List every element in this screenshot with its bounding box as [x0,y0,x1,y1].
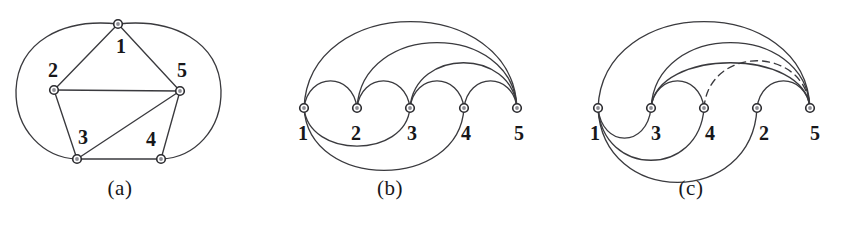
panel-b-vertex-group [300,104,522,113]
panel-b-vertex-core-4 [462,106,466,110]
panel-c-vertex-group [594,104,815,113]
panel-a-vertex-label-1: 1 [116,35,126,58]
panel-b-vertex-label-2: 2 [351,122,361,145]
panel-b-caption: (b) [240,176,540,201]
panel-b-vertex-label-3: 3 [407,122,417,145]
panel-b-arc-diagram: 12345 (b) [240,0,540,232]
panel-c-vertex-label-5: 5 [810,122,820,145]
panel-a-edge-1-2 [54,24,118,90]
panel-c-vertex-label-3: 3 [651,122,661,145]
panel-a-vertex-core-3 [75,157,79,161]
panel-a-vertex-core-5 [178,89,182,93]
panel-b-vertex-core-1 [302,106,306,110]
panel-c-vertex-core-2 [755,106,759,110]
panel-a-caption: (a) [0,176,240,201]
panel-b-arc-above-2-3 [357,81,410,108]
panel-a-vertex-core-2 [52,88,56,92]
panel-c-caption: (c) [540,176,842,201]
panel-a-vertex-label-3: 3 [78,126,88,149]
panel-a-vertex-label-2: 2 [48,59,58,82]
figure-canvas: 12534 (a) 12345 (b) 13425 (c) [0,0,842,232]
panel-c-vertex-core-5 [808,106,812,110]
panel-a-edge-2-5 [54,90,180,91]
panel-b-vertex-core-2 [355,106,359,110]
panel-b-vertex-core-5 [515,106,519,110]
panel-a-plane-graph: 12534 (a) [0,0,240,232]
panel-c-arc-above-3-4 [651,81,704,108]
panel-c-arc-diagram: 13425 (c) [540,0,842,232]
panel-b-arc-above-3-5 [410,63,517,108]
panel-b-vertex-label-4: 4 [461,122,471,145]
panel-c-vertex-core-4 [702,106,706,110]
panel-a-vertex-core-1 [116,22,120,26]
panel-b-arc-group [304,22,517,171]
panel-c-vertex-label-4: 4 [705,122,715,145]
panel-c-vertex-label-2: 2 [759,122,769,145]
panel-c-vertex-core-3 [649,106,653,110]
panel-c-arc-above-2-5 [757,81,810,108]
panel-c-vertex-core-1 [596,106,600,110]
panel-a-edge-1-5 [118,24,180,91]
panel-a-vertex-core-4 [159,157,163,161]
panel-c-vertex-label-1: 1 [590,122,600,145]
panel-b-arc-above-1-5 [304,22,517,108]
panel-c-arc-below-1-3 [598,108,651,138]
panel-b-vertex-core-3 [408,106,412,110]
panel-a-edge-2-3 [54,90,77,159]
panel-a-vertex-label-5: 5 [177,59,187,82]
panel-c-arc-above-3-5 [651,63,810,108]
panel-b-vertex-label-5: 5 [514,122,524,145]
panel-b-arc-above-1-2 [304,81,357,108]
panel-c-arc-below-1-2 [598,108,757,182]
panel-b-arc-below-1-4 [304,108,464,170]
panel-c-arc-group [598,22,810,183]
panel-a-vertex-label-4: 4 [146,128,156,151]
panel-b-vertex-label-1: 1 [298,122,308,145]
